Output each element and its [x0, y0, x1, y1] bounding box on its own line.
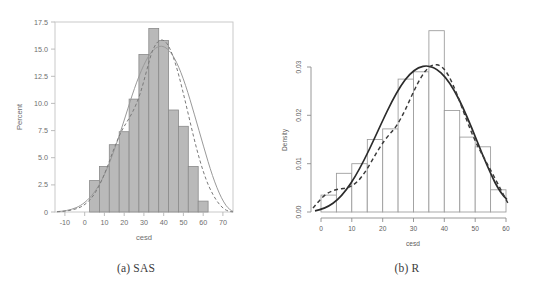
sas-bar	[139, 55, 149, 213]
r-bar	[383, 129, 398, 212]
r-xtick-0: 0	[319, 225, 323, 232]
r-bar	[491, 190, 506, 212]
caption-panel-b: (b) R	[271, 262, 543, 284]
r-bar	[444, 111, 459, 213]
r-xtick-10: 10	[348, 225, 356, 232]
r-bar	[414, 72, 429, 212]
sas-ytick-0: 0	[44, 208, 48, 217]
r-y-ticks	[307, 67, 311, 212]
sas-xtick-30: 30	[140, 218, 148, 227]
sas-xtick-10: 10	[100, 218, 108, 227]
r-ytick-0-01: 0.01	[295, 157, 302, 170]
sas-bar	[188, 166, 198, 212]
r-x-tick-labels: 0 10 20 30 40 50 60	[319, 225, 510, 232]
r-ytick-0-02: 0.02	[295, 109, 302, 122]
r-ytick-0-03: 0.03	[295, 60, 302, 73]
r-xtick-60: 60	[502, 225, 510, 232]
sas-x-axis-title: cesd	[136, 233, 152, 242]
sas-bar	[159, 41, 169, 213]
sas-bar	[198, 201, 208, 212]
r-bar	[460, 137, 475, 212]
r-chart-svg: 0.00 0.01 0.02 0.03 Density	[271, 0, 543, 260]
panel-r: 0.00 0.01 0.02 0.03 Density	[271, 0, 543, 260]
sas-xtick-20: 20	[120, 218, 128, 227]
panel-sas: 17.5 15.0 12.5 10.0 7.5 5.0 2.5 0 Percen…	[0, 0, 272, 260]
sas-y-tick-labels: 17.5 15.0 12.5 10.0 7.5 5.0 2.5 0	[34, 18, 48, 217]
r-x-axis-title: cesd	[406, 240, 420, 247]
r-y-tick-labels: 0.00 0.01 0.02 0.03	[295, 60, 302, 218]
sas-xtick-70: 70	[219, 218, 227, 227]
sas-y-axis-title: Percent	[15, 103, 24, 130]
sas-xtick-50: 50	[179, 218, 187, 227]
sas-bar	[109, 145, 119, 212]
sas-bar	[169, 110, 179, 212]
sas-bar	[99, 166, 109, 212]
sas-xtick-0: 0	[83, 218, 87, 227]
sas-bar	[119, 132, 129, 212]
sas-ytick-10-0: 10.0	[34, 99, 48, 108]
r-x-ticks	[321, 218, 506, 222]
sas-xtick-40: 40	[160, 218, 168, 227]
r-xtick-50: 50	[472, 225, 480, 232]
caption-panel-a: (a) SAS	[0, 262, 272, 284]
r-bar	[398, 79, 413, 212]
sas-ytick-2-5: 2.5	[38, 180, 48, 189]
r-xtick-20: 20	[379, 225, 387, 232]
r-ytick-0-00: 0.00	[295, 205, 302, 218]
r-y-axis-title: Density	[281, 128, 289, 151]
sas-ytick-12-5: 12.5	[34, 72, 48, 81]
sas-bar	[178, 126, 188, 212]
sas-y-ticks	[51, 22, 55, 212]
sas-xtick-60: 60	[199, 218, 207, 227]
sas-ytick-17-5: 17.5	[34, 18, 48, 27]
sas-ytick-5-0: 5.0	[38, 153, 48, 162]
r-xtick-40: 40	[441, 225, 449, 232]
sas-x-ticks	[65, 212, 223, 216]
figure-container: 17.5 15.0 12.5 10.0 7.5 5.0 2.5 0 Percen…	[0, 0, 543, 303]
sas-ytick-7-5: 7.5	[38, 126, 48, 135]
r-bar	[429, 31, 444, 212]
sas-ytick-15-0: 15.0	[34, 45, 48, 54]
sas-x-tick-labels: -10 0 10 20 30 40 50 60 70	[60, 218, 227, 227]
sas-xtick--10: -10	[60, 218, 70, 227]
r-xtick-30: 30	[410, 225, 418, 232]
sas-chart-svg: 17.5 15.0 12.5 10.0 7.5 5.0 2.5 0 Percen…	[0, 0, 272, 260]
